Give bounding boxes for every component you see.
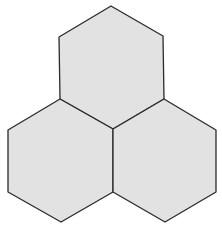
hexagon-diagram [0, 0, 222, 229]
